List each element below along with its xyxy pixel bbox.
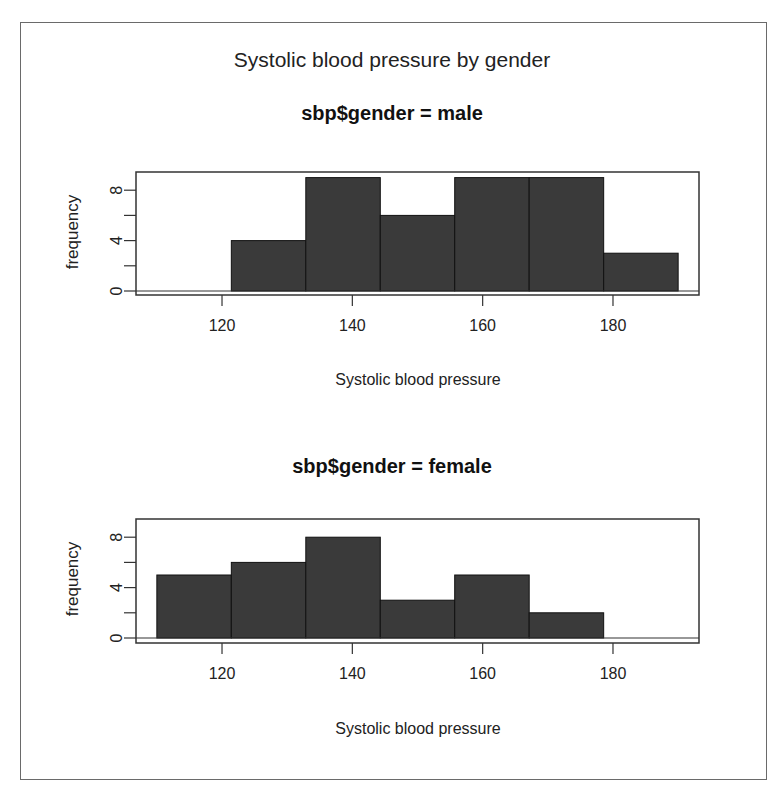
male-histogram: 048120140160180 bbox=[108, 172, 699, 334]
histogram-bar bbox=[231, 241, 305, 291]
y-tick-label: 8 bbox=[108, 186, 125, 195]
histogram-bar bbox=[529, 613, 603, 638]
histogram-canvas: 048120140160180 048120140160180 bbox=[0, 0, 784, 791]
x-tick-label: 120 bbox=[209, 665, 236, 682]
histogram-bar bbox=[157, 575, 231, 638]
x-tick-label: 140 bbox=[339, 665, 366, 682]
female-histogram: 048120140160180 bbox=[108, 519, 699, 682]
histogram-bar bbox=[529, 178, 603, 291]
y-tick-label: 4 bbox=[108, 236, 125, 245]
histogram-bar bbox=[380, 215, 454, 291]
histogram-bar bbox=[455, 575, 529, 638]
x-tick-label: 180 bbox=[600, 317, 627, 334]
histogram-bar bbox=[380, 600, 454, 638]
x-tick-label: 140 bbox=[339, 317, 366, 334]
histogram-bar bbox=[306, 178, 380, 291]
histogram-bar bbox=[455, 178, 529, 291]
histogram-bar bbox=[231, 562, 305, 638]
x-tick-label: 160 bbox=[469, 665, 496, 682]
y-tick-label: 8 bbox=[108, 533, 125, 542]
x-tick-label: 160 bbox=[469, 317, 496, 334]
x-tick-label: 180 bbox=[600, 665, 627, 682]
y-tick-label: 0 bbox=[108, 286, 125, 295]
y-tick-label: 0 bbox=[108, 633, 125, 642]
x-tick-label: 120 bbox=[209, 317, 236, 334]
y-tick-label: 4 bbox=[108, 583, 125, 592]
histogram-bar bbox=[604, 253, 678, 291]
histogram-bar bbox=[306, 537, 380, 638]
